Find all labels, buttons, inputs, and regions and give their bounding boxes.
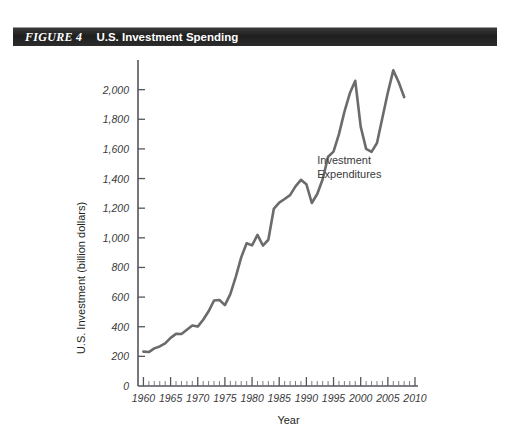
investment-expenditures-line bbox=[143, 70, 404, 352]
x-axis-title: Year bbox=[277, 414, 300, 426]
y-tick-label: 600 bbox=[111, 291, 129, 303]
investment-spending-line-chart: U.S. Investment (billion dollars) 020040… bbox=[0, 46, 514, 442]
figure-number-label: FIGURE 4 bbox=[25, 30, 82, 45]
annotation-line-2: Expenditures bbox=[317, 168, 382, 180]
y-tick-label: 0 bbox=[123, 380, 129, 392]
x-tick-label: 2000 bbox=[348, 392, 373, 404]
x-tick-label: 1970 bbox=[186, 392, 210, 404]
y-tick-label: 400 bbox=[111, 321, 129, 333]
x-tick-label: 1965 bbox=[159, 392, 183, 404]
figure-title: U.S. Investment Spending bbox=[96, 31, 238, 43]
figure-header-bar: FIGURE 4 U.S. Investment Spending bbox=[13, 27, 497, 46]
y-axis-tick-labels: 02004006008001,0001,2001,4001,6001,8002,… bbox=[102, 84, 129, 392]
y-tick-label: 1,400 bbox=[103, 173, 129, 185]
y-tick-label: 800 bbox=[111, 261, 129, 273]
y-axis-ticks bbox=[138, 90, 145, 357]
y-axis-title: U.S. Investment (billion dollars) bbox=[75, 202, 87, 354]
x-axis-major-ticks bbox=[143, 377, 415, 386]
y-tick-label: 2,000 bbox=[102, 84, 129, 96]
y-tick-label: 1,800 bbox=[103, 113, 129, 125]
x-tick-label: 1980 bbox=[240, 392, 264, 404]
x-tick-label: 2005 bbox=[375, 392, 400, 404]
x-tick-label: 1960 bbox=[132, 392, 156, 404]
x-tick-label: 2010 bbox=[402, 392, 427, 404]
x-tick-label: 1990 bbox=[295, 392, 319, 404]
x-tick-label: 1995 bbox=[322, 392, 346, 404]
y-tick-label: 1,200 bbox=[103, 202, 129, 214]
y-tick-label: 1,600 bbox=[103, 143, 129, 155]
chart-container: U.S. Investment (billion dollars) 020040… bbox=[0, 46, 514, 442]
x-axis-tick-labels: 1960196519701975198019851990199520002005… bbox=[132, 392, 427, 404]
y-tick-label: 1,000 bbox=[103, 232, 129, 244]
x-tick-label: 1975 bbox=[213, 392, 237, 404]
x-tick-label: 1985 bbox=[268, 392, 292, 404]
annotation-line-1: Investment bbox=[317, 154, 371, 166]
y-tick-label: 200 bbox=[110, 350, 129, 362]
